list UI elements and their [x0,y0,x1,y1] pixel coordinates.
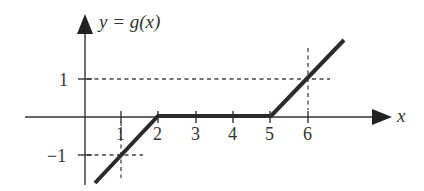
x-axis-arrow-icon [372,109,392,125]
axes [25,28,380,185]
dashed-guides [87,48,330,178]
x-tick-label-5: 5 [265,124,274,144]
x-tick-label-4: 4 [228,124,237,144]
function-graph: y = g(x) x 1 −1 1 2 3 4 5 6 [0,0,424,191]
x-tick-label-2: 2 [153,124,162,144]
x-tick-label-6: 6 [303,124,312,144]
x-tick-label-1: 1 [116,124,125,144]
function-label: y = g(x) [97,11,160,33]
g-curve [95,40,344,183]
y-axis-arrow-icon [77,14,93,34]
x-axis-label: x [396,105,406,126]
x-tick-label-3: 3 [191,124,200,144]
y-tick-label-neg1: −1 [47,146,66,166]
y-tick-label-1: 1 [59,70,68,90]
